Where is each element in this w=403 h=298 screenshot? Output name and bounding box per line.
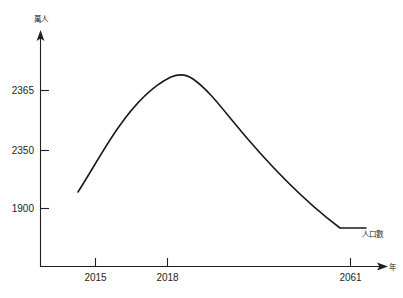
y-tick-label-1: 2350	[12, 145, 35, 156]
x-tick-label-1: 2018	[156, 272, 179, 283]
chart-canvas: 2365 2350 1900 2015 2018 2061 萬人 年 人口數	[0, 0, 403, 298]
y-axis-unit-label: 萬人	[34, 14, 49, 24]
x-tick-label-0: 2015	[84, 272, 107, 283]
series-label: 人口數	[362, 229, 384, 239]
x-axis-unit-label: 年	[389, 262, 397, 272]
x-tick-label-2: 2061	[339, 272, 362, 283]
y-tick-label-0: 2365	[12, 85, 35, 96]
y-tick-label-2: 1900	[12, 203, 35, 214]
population-curve	[78, 75, 366, 228]
population-projection-chart: 2365 2350 1900 2015 2018 2061 萬人 年 人口數	[0, 0, 403, 298]
